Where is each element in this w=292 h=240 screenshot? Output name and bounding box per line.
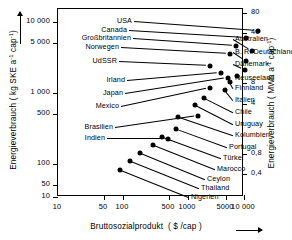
country-label: USA — [117, 17, 132, 25]
y-axis-left-tick-label: 5 000 — [0, 38, 50, 46]
country-label: Großbritannien — [82, 34, 131, 42]
y-axis-left-title: Energieverbrauch ( kg SKE a-1 cap-1) — [8, 0, 19, 200]
y-axis-left-tick-label: 10 — [0, 192, 50, 200]
country-label: Thailand — [201, 184, 229, 192]
y-axis-left-title-wrap: Energieverbrauch ( kg SKE a-1 cap-1) — [14, 0, 30, 200]
country-label: Marocco — [217, 165, 245, 173]
country-label: Australien — [235, 35, 268, 43]
x-axis-tick — [169, 195, 170, 200]
leader-line — [107, 138, 164, 139]
x-axis-tick — [104, 195, 105, 200]
x-axis-tick — [226, 195, 227, 200]
y-axis-left-tick-label: 10 000 — [0, 17, 50, 25]
country-label: Finnland — [235, 84, 263, 92]
y-axis-left-tick — [53, 185, 58, 186]
country-label: Norwegen — [85, 43, 119, 51]
x-axis-tick-label: 50 — [99, 203, 108, 211]
x-axis-arrow-icon — [236, 230, 262, 231]
country-label: Portugal — [229, 143, 257, 151]
y-axis-left-tick — [53, 22, 58, 23]
x-axis-tick — [244, 195, 245, 200]
x-axis-tick-label: 500 — [162, 203, 175, 211]
y-axis-right-tick — [242, 174, 247, 175]
x-axis-title: Bruttosozialprodukt ( $ /cap ) — [90, 222, 202, 231]
x-axis-tick-label: 100 — [116, 203, 129, 211]
x-axis-tick — [123, 195, 124, 200]
figure: Energieverbrauch ( kg SKE a-1 cap-1) Ene… — [0, 0, 292, 240]
y-axis-left-tick-label: 100 — [0, 159, 50, 167]
data-point — [243, 68, 248, 73]
y-axis-left-tick — [53, 197, 58, 198]
country-label: Brasilien — [85, 123, 113, 131]
y-axis-left-tick — [53, 164, 58, 165]
x-axis-tick-label: 10 000 — [231, 203, 255, 211]
x-axis-tick-label: 10 — [53, 203, 62, 211]
country-label: Kolumbien — [235, 131, 270, 139]
country-label: Dänemark — [235, 60, 269, 68]
country-label: B. R. Deutschland — [235, 48, 292, 56]
country-label: Irland — [106, 76, 125, 84]
country-label: UdSSR — [93, 57, 117, 65]
country-label: Mexico — [96, 102, 119, 110]
data-point — [196, 114, 201, 119]
y-axis-left-tick — [53, 114, 58, 115]
country-label: Italien — [235, 96, 255, 104]
y-axis-left-tick-label: 50 — [0, 180, 50, 188]
country-label: Nigerien — [191, 193, 219, 201]
country-label: Neuseeland — [235, 74, 274, 82]
y-axis-left-tick-label: 1 000 — [0, 88, 50, 96]
country-label: Chile — [235, 108, 252, 116]
x-axis-tick-label: 1000 — [178, 203, 195, 211]
country-label: Ceylon — [207, 175, 230, 183]
country-label: Japan — [103, 89, 123, 97]
y-axis-right-tick-label: 80 — [251, 8, 275, 16]
y-axis-left-tick — [53, 43, 58, 44]
y-axis-right-tick-label: 0,4 — [251, 169, 275, 177]
data-point — [219, 71, 224, 76]
country-label: Indien — [85, 134, 105, 142]
country-label: Türkei — [223, 154, 244, 162]
data-point — [208, 86, 213, 91]
y-axis-left-tick-label: 500 — [0, 109, 50, 117]
y-axis-right-tick — [242, 13, 247, 14]
y-axis-left-tick — [53, 93, 58, 94]
data-point — [208, 64, 213, 69]
y-axis-right-tick — [242, 104, 247, 105]
country-label: Uruguay — [235, 120, 263, 128]
